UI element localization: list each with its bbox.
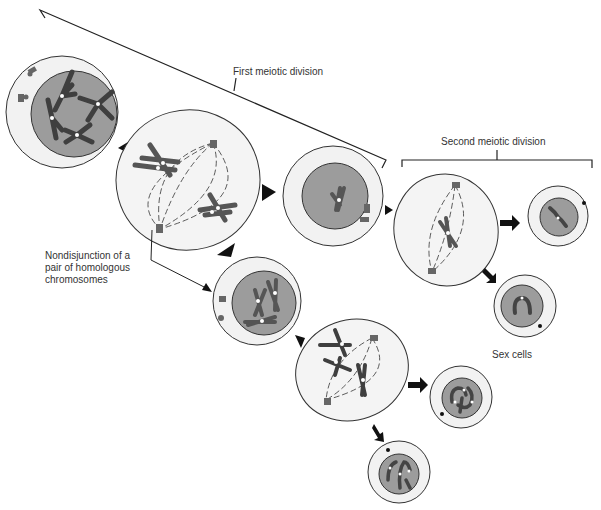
nondisjunction-label: Nondisjunction of a pair of homologous c… xyxy=(45,250,130,286)
gamete-1 xyxy=(528,186,588,246)
arrow-icon xyxy=(262,184,276,201)
arrow-icon xyxy=(372,424,384,442)
gamete-3 xyxy=(430,366,492,428)
arrow-icon xyxy=(500,215,520,231)
sex-cells-label: Sex cells xyxy=(492,349,532,361)
second-division-bracket xyxy=(402,150,592,168)
metaphase-ii-cell-b xyxy=(281,304,422,437)
arrow-icon xyxy=(385,205,393,215)
gamete-2 xyxy=(494,275,556,337)
arrow-icon xyxy=(217,243,235,257)
metaphase-i-cell xyxy=(100,94,275,266)
arrow-icon xyxy=(482,268,496,283)
daughter-cell-b xyxy=(213,257,301,345)
second-division-label: Second meiotic division xyxy=(441,136,546,148)
first-division-label: First meiotic division xyxy=(233,66,323,78)
arrow-icon xyxy=(295,335,305,348)
parent-cell xyxy=(6,56,118,168)
daughter-cell-a xyxy=(283,146,383,246)
gamete-4 xyxy=(368,441,430,503)
arrow-icon xyxy=(408,377,428,393)
